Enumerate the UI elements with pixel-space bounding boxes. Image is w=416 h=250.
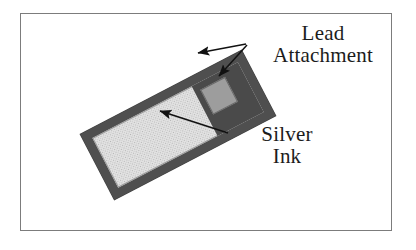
lead-attachment-pointer-1 bbox=[198, 44, 246, 53]
lead-attachment-pointer-2 bbox=[219, 45, 247, 76]
label-silver-ink: Silver Ink bbox=[232, 123, 342, 167]
label-lead-attachment-line1: Lead bbox=[302, 21, 345, 45]
label-silver-ink-line2: Ink bbox=[232, 145, 342, 167]
label-lead-attachment: Lead Attachment bbox=[248, 22, 398, 66]
silver-ink-pointer bbox=[160, 111, 228, 133]
label-lead-attachment-line2: Attachment bbox=[248, 44, 398, 66]
label-silver-ink-line1: Silver bbox=[261, 122, 312, 146]
figure-canvas: Lead Attachment Silver Ink bbox=[0, 0, 416, 250]
